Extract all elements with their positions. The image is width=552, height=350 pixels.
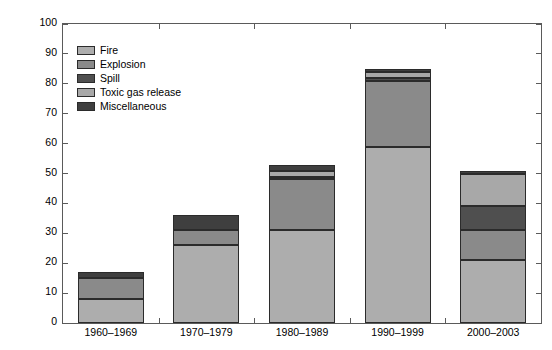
legend-color-swatch: [77, 74, 95, 83]
y-tick-mark-right: [536, 53, 541, 54]
legend-item-label: Spill: [100, 73, 120, 84]
bar-segment[interactable]: [365, 78, 431, 81]
legend-item[interactable]: Miscellaneous: [77, 99, 181, 113]
legend-item-label: Toxic gas release: [100, 87, 181, 98]
y-tick-mark: [63, 293, 68, 294]
x-tick-mark: [254, 24, 255, 29]
legend-item[interactable]: Explosion: [77, 57, 181, 71]
y-tick-mark: [63, 83, 68, 84]
bar-segment[interactable]: [269, 171, 335, 177]
bar-segment[interactable]: [365, 72, 431, 78]
bar-stack[interactable]: [365, 69, 431, 323]
figure-canvas: Number of accidents 01020304050607080901…: [0, 0, 552, 350]
bar-stack[interactable]: [173, 215, 239, 323]
bar-segment[interactable]: [269, 165, 335, 171]
bar-stack[interactable]: [269, 165, 335, 323]
y-tick-mark: [63, 113, 68, 114]
bar-segment[interactable]: [173, 245, 239, 323]
bar-segment[interactable]: [460, 230, 526, 260]
y-tick-mark-right: [536, 203, 541, 204]
legend-item[interactable]: Fire: [77, 43, 181, 57]
y-tick-label: 0: [51, 315, 57, 327]
legend-color-swatch: [77, 46, 95, 55]
y-tick-mark-right: [536, 323, 541, 324]
y-tick-mark: [63, 173, 68, 174]
x-tick-mark: [350, 318, 351, 323]
y-tick-mark-right: [536, 293, 541, 294]
legend-color-swatch: [77, 102, 95, 111]
y-tick-mark-right: [536, 263, 541, 264]
x-tick-label: 1990–1999: [371, 326, 424, 338]
legend-color-swatch: [77, 60, 95, 69]
x-tick-mark: [254, 318, 255, 323]
bar-segment[interactable]: [269, 230, 335, 323]
bar-segment[interactable]: [78, 272, 144, 278]
y-tick-mark: [63, 263, 68, 264]
bar-segment[interactable]: [365, 147, 431, 323]
y-tick-mark-right: [536, 143, 541, 144]
y-tick-label: 80: [45, 76, 57, 88]
y-tick-label: 60: [45, 136, 57, 148]
bar-segment[interactable]: [460, 260, 526, 323]
bar-stack[interactable]: [460, 171, 526, 323]
bar-segment[interactable]: [269, 177, 335, 180]
bar-segment[interactable]: [365, 81, 431, 147]
y-tick-mark: [63, 323, 68, 324]
legend-color-swatch: [77, 88, 95, 97]
bar-segment[interactable]: [173, 215, 239, 230]
legend-item-label: Fire: [100, 45, 118, 56]
bar-segment[interactable]: [78, 278, 144, 299]
plot-area: 0102030405060708090100 1960–19691970–197…: [62, 23, 542, 324]
y-tick-mark: [63, 24, 68, 25]
bar-stack[interactable]: [78, 272, 144, 323]
legend-item-label: Explosion: [100, 59, 146, 70]
x-tick-label: 2000–2003: [467, 326, 520, 338]
y-tick-mark: [63, 203, 68, 204]
bar-segment[interactable]: [365, 69, 431, 72]
y-tick-mark: [63, 233, 68, 234]
x-tick-mark: [445, 24, 446, 29]
x-tick-mark: [350, 24, 351, 29]
legend: FireExplosionSpillToxic gas releaseMisce…: [77, 43, 181, 113]
y-tick-label: 20: [45, 255, 57, 267]
y-tick-label: 30: [45, 225, 57, 237]
x-tick-mark: [445, 318, 446, 323]
y-tick-mark: [63, 143, 68, 144]
legend-item[interactable]: Toxic gas release: [77, 85, 181, 99]
y-tick-label: 90: [45, 46, 57, 58]
x-tick-mark: [159, 318, 160, 323]
x-tick-label: 1970–1979: [180, 326, 233, 338]
y-tick-mark-right: [536, 83, 541, 84]
y-tick-label: 70: [45, 106, 57, 118]
y-tick-mark-right: [536, 173, 541, 174]
y-tick-label: 100: [39, 16, 57, 28]
bar-segment[interactable]: [460, 206, 526, 230]
y-tick-label: 10: [45, 285, 57, 297]
y-tick-mark: [63, 53, 68, 54]
y-tick-label: 40: [45, 195, 57, 207]
x-tick-label: 1980–1989: [276, 326, 329, 338]
y-tick-mark-right: [536, 233, 541, 234]
bar-segment[interactable]: [460, 174, 526, 207]
bar-segment[interactable]: [460, 171, 526, 174]
x-tick-mark: [159, 24, 160, 29]
y-tick-label: 50: [45, 166, 57, 178]
bar-segment[interactable]: [269, 179, 335, 230]
legend-item-label: Miscellaneous: [100, 101, 167, 112]
legend-item[interactable]: Spill: [77, 71, 181, 85]
y-tick-mark-right: [536, 24, 541, 25]
x-tick-label: 1960–1969: [85, 326, 138, 338]
bar-segment[interactable]: [78, 299, 144, 323]
bar-segment[interactable]: [173, 230, 239, 245]
y-tick-mark-right: [536, 113, 541, 114]
